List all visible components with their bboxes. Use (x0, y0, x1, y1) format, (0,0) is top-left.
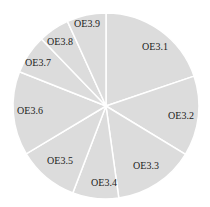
label-oe3-1: OE3.1 (142, 41, 168, 52)
label-oe3-3: OE3.3 (133, 160, 159, 171)
label-oe3-4: OE3.4 (91, 177, 117, 188)
label-oe3-6: OE3.6 (17, 105, 43, 116)
label-oe3-7: OE3.7 (25, 57, 51, 68)
label-oe3-5: OE3.5 (47, 155, 73, 166)
pie-chart: OE3.1 OE3.2 OE3.3 OE3.4 OE3.5 OE3.6 OE3.… (0, 0, 210, 207)
label-oe3-2: OE3.2 (168, 110, 194, 121)
label-oe3-9: OE3.9 (74, 18, 100, 29)
label-oe3-8: OE3.8 (47, 36, 73, 47)
